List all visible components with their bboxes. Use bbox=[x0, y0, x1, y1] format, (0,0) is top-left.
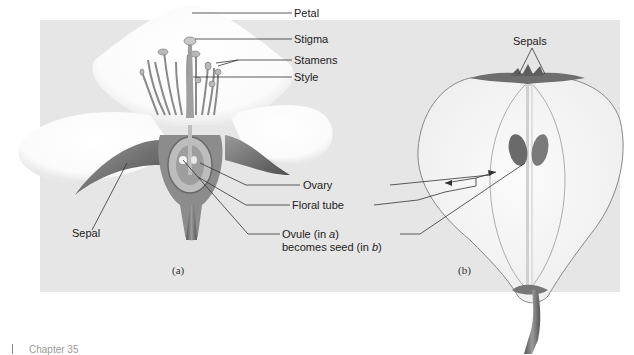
fruit-cross-section bbox=[418, 64, 623, 354]
label-floral-tube: Floral tube bbox=[292, 199, 344, 212]
label-style: Style bbox=[294, 71, 318, 84]
label-sepal: Sepal bbox=[72, 227, 100, 240]
label-seed-line2: becomes seed (in b) bbox=[282, 241, 382, 254]
page-footer: Chapter 35 bbox=[12, 344, 78, 355]
label-ovule-seed: Ovule (in a) becomes seed (in b) bbox=[282, 228, 382, 254]
caption-a: (a) bbox=[172, 264, 184, 276]
label-petal: Petal bbox=[294, 7, 319, 20]
label-stigma: Stigma bbox=[294, 33, 328, 46]
label-stamens: Stamens bbox=[294, 54, 337, 67]
label-ovary: Ovary bbox=[303, 179, 332, 192]
footer-divider bbox=[12, 344, 13, 354]
chapter-label: Chapter 35 bbox=[29, 344, 78, 355]
label-ovule-line1: Ovule (in a) bbox=[282, 228, 382, 241]
caption-b: (b) bbox=[458, 264, 471, 276]
label-sepals: Sepals bbox=[513, 35, 547, 48]
